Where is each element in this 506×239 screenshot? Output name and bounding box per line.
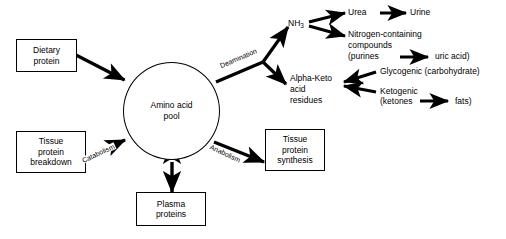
- label-alpha-keto-line3: residues: [290, 95, 322, 106]
- tissue-protein-synthesis-line3: synthesis: [277, 155, 312, 166]
- arrow-ammonia-to-nitrogen-compounds: [309, 26, 345, 36]
- dietary-protein-line1: Dietary: [33, 45, 60, 56]
- node-dietary-protein[interactable]: Dietary protein: [16, 39, 77, 72]
- amino-acid-pool-line1: Amino acid: [150, 100, 192, 111]
- label-glycogenic: Glycogenic (carbohydrate): [380, 66, 480, 77]
- arrow-ammonia-to-urea: [309, 13, 345, 22]
- label-nitrogen-compounds-line1: Nitrogen-containing: [348, 29, 422, 40]
- arrow-glycogenic-to-alpha-keto: [344, 72, 376, 82]
- label-nitrogen-compounds-line2: compounds: [348, 40, 392, 51]
- node-tissue-protein-synthesis[interactable]: Tissue protein synthesis: [265, 129, 325, 171]
- ammonia-formula: NH: [288, 18, 300, 28]
- tissue-protein-breakdown-line3: breakdown: [30, 157, 72, 168]
- label-urea: Urea: [348, 7, 366, 18]
- label-ammonia: NH3: [288, 18, 304, 31]
- label-alpha-keto-line2: acid: [290, 84, 306, 95]
- diagram-connectors: [0, 0, 506, 239]
- node-plasma-proteins[interactable]: Plasma proteins: [136, 192, 206, 226]
- tissue-protein-synthesis-line1: Tissue: [283, 134, 308, 145]
- diagram-canvas: Amino acid pool Dietary protein Tissue p…: [0, 0, 506, 239]
- label-alpha-keto-line1: Alpha-Keto: [290, 73, 332, 84]
- node-amino-acid-pool[interactable]: Amino acid pool: [123, 62, 220, 160]
- arrow-ketogenic-to-alpha-keto: [344, 86, 376, 92]
- label-uric-acid: uric acid): [435, 51, 469, 62]
- label-nitrogen-compounds-line3: (purines: [348, 51, 379, 62]
- amino-acid-pool-line2: pool: [163, 111, 179, 122]
- arrow-deamination-to-ammonia: [263, 27, 288, 62]
- arrow-deamination-to-alpha-keto: [263, 62, 286, 84]
- label-urine: Urine: [410, 7, 430, 18]
- tissue-protein-breakdown-line2: protein: [38, 147, 64, 158]
- plasma-proteins-line1: Plasma: [157, 199, 185, 210]
- ammonia-subscript: 3: [300, 22, 304, 29]
- tissue-protein-breakdown-line1: Tissue: [39, 136, 64, 147]
- plasma-proteins-line2: proteins: [156, 209, 186, 220]
- arrow-dietary-to-pool: [76, 55, 125, 80]
- dietary-protein-line2: protein: [34, 56, 60, 67]
- node-tissue-protein-breakdown[interactable]: Tissue protein breakdown: [16, 131, 86, 173]
- tissue-protein-synthesis-line2: protein: [282, 145, 308, 156]
- label-ketogenic-line2: (ketones: [380, 96, 413, 107]
- label-fats: fats): [455, 96, 472, 107]
